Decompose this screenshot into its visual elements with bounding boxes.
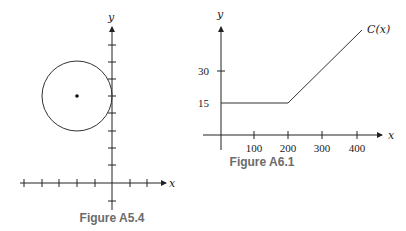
y-axis-label: y — [107, 11, 115, 24]
x-axis-label: x — [388, 129, 395, 142]
cost-function-line — [221, 30, 362, 103]
x-tick-label-100: 100 — [246, 142, 263, 154]
x-axis-label: x — [169, 177, 176, 190]
y-tick-label-30: 30 — [198, 65, 210, 77]
circle-center-dot — [75, 94, 79, 98]
x-tick-label-400: 400 — [349, 142, 366, 154]
x-tick-label-200: 200 — [280, 142, 297, 154]
curve-label: C(x) — [367, 23, 390, 36]
figure-caption: Figure A6.1 — [230, 155, 295, 169]
x-tick-label-300: 300 — [314, 142, 331, 154]
figure-caption: Figure A5.4 — [80, 211, 145, 225]
y-axis-label: y — [216, 8, 224, 21]
figures-canvas: y x Figure A5.4 — [0, 0, 406, 231]
y-tick-label-15: 15 — [198, 97, 210, 109]
figure-a6-1: y 30 15 x 100 200 300 400 C(x) Figure A6… — [198, 8, 395, 169]
figure-a5-4: y x Figure A5.4 — [20, 11, 176, 225]
